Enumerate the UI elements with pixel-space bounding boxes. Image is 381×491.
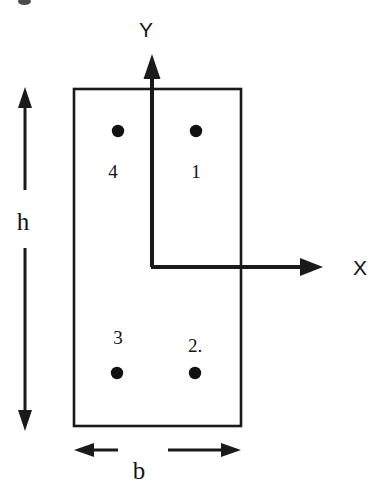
section-outline-rect bbox=[74, 89, 241, 426]
bar-dot-4 bbox=[112, 125, 124, 137]
bar-dot-2 bbox=[189, 367, 201, 379]
x-axis-label: X bbox=[353, 257, 367, 278]
height-dimension-up-arrowhead-icon bbox=[18, 87, 32, 108]
height-dimension-down-arrowhead-icon bbox=[18, 410, 32, 431]
y-axis-arrowhead-icon bbox=[144, 54, 161, 79]
height-dimension bbox=[18, 87, 32, 431]
bar-label-2: 2. bbox=[188, 336, 202, 355]
height-dimension-label: h bbox=[17, 209, 30, 234]
width-dimension bbox=[74, 443, 241, 457]
bar-dot-3 bbox=[111, 367, 123, 379]
bar-label-3: 3 bbox=[113, 328, 123, 347]
scan-artifact-smudge bbox=[18, 0, 31, 5]
y-axis-label: Y bbox=[139, 19, 153, 40]
bar-label-1: 1 bbox=[191, 162, 201, 181]
bar-dot-1 bbox=[190, 125, 202, 137]
bar-label-4: 4 bbox=[108, 162, 118, 181]
cross-section-figure bbox=[0, 0, 381, 491]
width-dimension-left-arrowhead-icon bbox=[74, 443, 94, 457]
x-axis-arrowhead-icon bbox=[300, 258, 323, 276]
width-dimension-right-arrowhead-icon bbox=[221, 443, 241, 457]
width-dimension-label: b bbox=[133, 458, 146, 483]
